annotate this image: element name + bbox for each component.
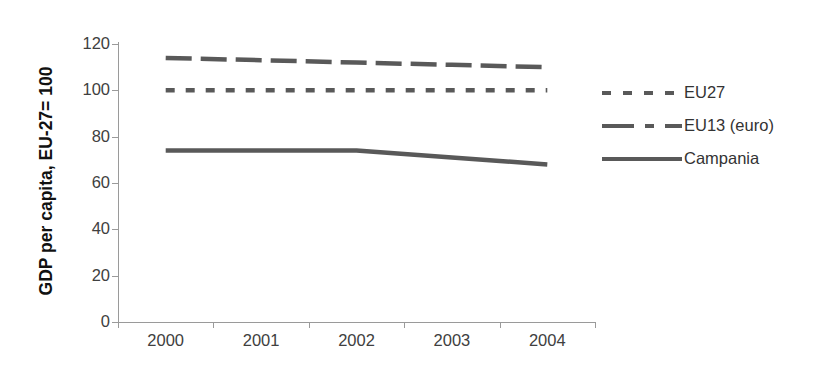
y-axis-tick xyxy=(112,137,118,138)
y-axis-tick-label: 80 xyxy=(68,127,110,146)
y-axis-tick-label: 120 xyxy=(68,34,110,53)
x-axis-tick xyxy=(404,322,405,328)
legend-item-eu13: EU13 (euro) xyxy=(602,109,825,142)
dashed-line-key xyxy=(602,119,682,133)
legend-item-eu27: EU27 xyxy=(602,76,825,109)
series-line-eu13-euro xyxy=(166,58,548,67)
y-axis-title: GDP per capita, EU-27= 100 xyxy=(31,26,61,336)
y-axis-tick xyxy=(112,276,118,277)
y-axis-line xyxy=(118,42,119,323)
gdp-per-capita-line-chart: GDP per capita, EU-27= 100 1201008060402… xyxy=(0,0,825,386)
legend-label-campania: Campania xyxy=(684,149,759,168)
x-axis-tick xyxy=(118,322,119,328)
legend-label-eu13: EU13 (euro) xyxy=(684,116,774,135)
x-axis-tick xyxy=(309,322,310,328)
x-axis-tick xyxy=(595,322,596,328)
x-axis-tick-label: 2001 xyxy=(211,331,311,350)
x-axis-tick xyxy=(500,322,501,328)
y-axis-tick-label: 60 xyxy=(68,173,110,192)
y-axis-tick-label: 100 xyxy=(68,80,110,99)
chart-legend: EU27 EU13 (euro) Campania xyxy=(602,76,825,175)
x-axis-tick-label: 2003 xyxy=(402,331,502,350)
dotted-line-key xyxy=(602,86,682,100)
solid-line-key xyxy=(602,152,682,166)
x-axis-tick xyxy=(213,322,214,328)
y-axis-tick xyxy=(112,183,118,184)
x-axis-tick-label: 2002 xyxy=(307,331,407,350)
series-plot-area xyxy=(0,0,825,386)
legend-item-campania: Campania xyxy=(602,142,825,175)
y-axis-tick-label: 20 xyxy=(68,266,110,285)
series-line-campania xyxy=(166,151,548,165)
y-axis-tick-label: 40 xyxy=(68,219,110,238)
x-axis-tick-label: 2000 xyxy=(116,331,216,350)
x-axis-tick-label: 2004 xyxy=(497,331,597,350)
x-axis-line xyxy=(118,322,596,323)
y-axis-tick xyxy=(112,90,118,91)
y-axis-tick-label: 0 xyxy=(68,312,110,331)
y-axis-tick xyxy=(112,229,118,230)
legend-label-eu27: EU27 xyxy=(684,83,725,102)
y-axis-tick xyxy=(112,44,118,45)
